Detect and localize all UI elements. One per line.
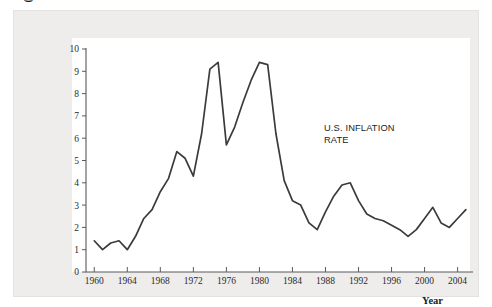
x-tick-label: 1984 (283, 276, 302, 286)
y-tick-label: 9 (74, 67, 79, 77)
chart-svg: 012345678910 196019641968197219761980198… (14, 11, 492, 307)
x-tick-label: 1980 (250, 276, 269, 286)
y-tick-label: 1 (74, 245, 79, 255)
x-tick-label: 1988 (316, 276, 335, 286)
x-tick-label: 1964 (118, 276, 137, 286)
y-tick-label: 10 (70, 44, 80, 54)
y-tick-label: 0 (74, 267, 79, 277)
y-tick-label: 3 (74, 201, 79, 211)
x-tick-label: 1992 (349, 276, 368, 286)
y-tick-label: 6 (74, 134, 79, 144)
x-tick-label: 1976 (217, 276, 236, 286)
x-tick-label: 1960 (85, 276, 104, 286)
y-axis-ticks: 012345678910 (70, 44, 87, 277)
inflation-rate-line (94, 62, 466, 249)
x-axis-ticks: 1960196419681972197619801984198819921996… (85, 267, 468, 286)
x-tick-label: 1968 (151, 276, 170, 286)
x-tick-label: 1972 (184, 276, 203, 286)
figure-panel: Inflation rate (percent per year) Year U… (14, 11, 478, 296)
y-tick-label: 7 (74, 111, 79, 121)
y-tick-label: 2 (74, 223, 79, 233)
x-tick-label: 2004 (448, 276, 467, 286)
x-tick-label: 1996 (382, 276, 401, 286)
y-tick-label: 8 (74, 89, 79, 99)
y-tick-label: 5 (74, 156, 79, 166)
axis-frame (86, 48, 473, 272)
x-tick-label: 2000 (415, 276, 434, 286)
y-tick-label: 4 (74, 178, 79, 188)
